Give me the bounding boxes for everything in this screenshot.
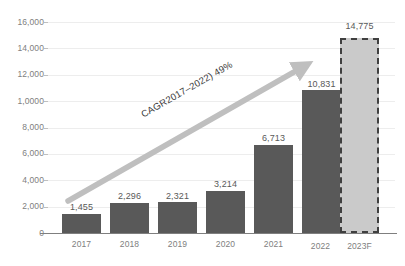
bar-2023f[interactable] — [340, 38, 379, 233]
bar-value-2019: 2,321 — [153, 191, 202, 201]
ytick-label-10000: 1,0000 — [0, 97, 44, 106]
ytick-mark-16000 — [44, 22, 48, 23]
bar-2018[interactable] — [110, 203, 149, 233]
ytick-label-8000: 8,000 — [0, 123, 44, 132]
xtick-label-2019: 2019 — [153, 239, 202, 249]
ytick-label-0: 0 — [0, 229, 44, 238]
ytick-label-12000: 12,000 — [0, 70, 44, 79]
xtick-label-2017: 2017 — [57, 239, 106, 249]
bar-value-2017: 1,455 — [57, 202, 106, 212]
ytick-mark-8000 — [44, 128, 48, 129]
xtick-label-2021: 2021 — [249, 239, 298, 249]
ytick-label-4000: 4,000 — [0, 176, 44, 185]
bar-chart: 16,000 14,000 12,000 1,0000 8,000 6,000 … — [0, 0, 405, 266]
bar-2017[interactable] — [62, 214, 101, 233]
ytick-mark-4000 — [44, 180, 48, 181]
bar-value-2018: 2,296 — [105, 191, 154, 201]
ytick-mark-6000 — [44, 154, 48, 155]
bar-value-2022: 10,831 — [295, 79, 348, 89]
x-axis-line — [40, 233, 397, 234]
bar-value-2020: 3,214 — [201, 179, 250, 189]
xtick-label-2023f: 2023F — [335, 241, 384, 251]
xtick-label-2018: 2018 — [105, 239, 154, 249]
bar-2022[interactable] — [302, 90, 341, 233]
ytick-label-6000: 6,000 — [0, 149, 44, 158]
ytick-label-2000: 2,000 — [0, 202, 44, 211]
ytick-mark-12000 — [44, 75, 48, 76]
bar-value-2023f: 14,775 — [333, 21, 386, 31]
ytick-mark-2000 — [44, 207, 48, 208]
ytick-label-14000: 14,000 — [0, 44, 44, 53]
ytick-mark-10000 — [44, 101, 48, 102]
bar-value-2021: 6,713 — [249, 133, 298, 143]
ytick-label-16000: 16,000 — [0, 18, 44, 27]
bar-2019[interactable] — [158, 202, 197, 233]
xtick-label-2020: 2020 — [201, 239, 250, 249]
ytick-mark-14000 — [44, 48, 48, 49]
bar-2021[interactable] — [254, 145, 293, 234]
bar-2020[interactable] — [206, 191, 245, 233]
